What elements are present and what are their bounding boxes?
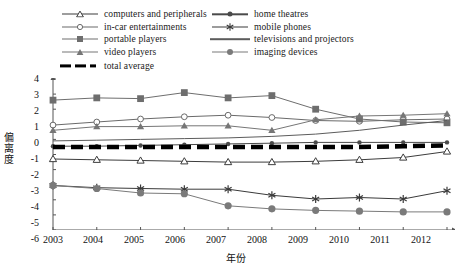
x-tick-label: 2011: [357, 234, 403, 245]
y-axis-label: 偏离度: [2, 132, 16, 165]
y-tick-label: 2: [17, 106, 39, 116]
circle-open-marker-icon: [60, 21, 100, 33]
thick-dashed-marker-icon: [60, 60, 100, 72]
circle-filled-marker-icon: [210, 46, 250, 58]
legend-item-televisions-and-projectors: televisions and projectors: [210, 33, 390, 46]
legend-label: televisions and projectors: [254, 33, 354, 45]
triangle-filled-marker-icon: [60, 46, 100, 58]
y-tick-label: -4: [17, 202, 39, 212]
legend-item-video-players: video players: [60, 46, 210, 59]
legend-item-computers-and-peripherals: computers and peripherals: [60, 8, 210, 21]
x-tick-label: 2008: [234, 234, 280, 245]
x-tick-label: 2004: [70, 234, 116, 245]
plain-line-marker-icon: [210, 33, 250, 45]
y-tick-label: 0: [17, 138, 39, 148]
square-filled-marker-icon: [60, 33, 100, 45]
asterisk-marker-icon: [210, 21, 250, 33]
y-tick-label: 1: [17, 122, 39, 132]
legend-label: mobile phones: [254, 21, 311, 33]
legend-item-portable-players: portable players: [60, 33, 210, 46]
x-tick-label: 2012: [398, 234, 444, 245]
chart-legend: computers and peripherals home theatres …: [60, 8, 390, 72]
chart-figure: computers and peripherals home theatres …: [0, 0, 472, 271]
plot-area: [45, 78, 455, 230]
y-tick-label: -3: [17, 186, 39, 196]
y-tick-label: -2: [17, 170, 39, 180]
triangle-open-marker-icon: [60, 8, 100, 20]
legend-item-total-average: total average: [60, 59, 390, 72]
legend-label: portable players: [104, 33, 167, 45]
y-tick-label: 3: [17, 90, 39, 100]
legend-item-imaging-devices: imaging devices: [210, 46, 390, 59]
legend-label: in-car entertainments: [104, 21, 187, 33]
legend-item-mobile-phones: mobile phones: [210, 21, 390, 34]
plot-svg: [45, 78, 455, 230]
x-tick-label: 2006: [152, 234, 198, 245]
legend-item-home-theatres: home theatres: [210, 8, 390, 21]
y-tick-label: -1: [17, 154, 39, 164]
legend-label: video players: [104, 46, 156, 58]
x-tick-label: 2007: [193, 234, 239, 245]
x-tick-label: 2005: [111, 234, 157, 245]
legend-label: imaging devices: [254, 46, 318, 58]
legend-item-in-car-entertainments: in-car entertainments: [60, 21, 210, 34]
circle-small-filled-marker-icon: [210, 8, 250, 20]
legend-label: total average: [104, 60, 154, 72]
x-tick-label: 2009: [275, 234, 321, 245]
legend-label: home theatres: [254, 8, 308, 20]
x-tick-label: 2010: [316, 234, 362, 245]
x-axis-label: 年份: [0, 250, 472, 265]
y-tick-label: -5: [17, 218, 39, 228]
y-tick-label: 4: [17, 74, 39, 84]
legend-label: computers and peripherals: [104, 8, 207, 20]
